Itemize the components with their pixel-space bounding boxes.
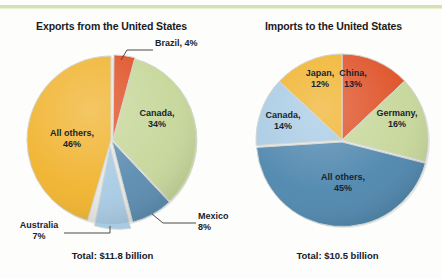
chart-canvas: Exports from the United States (0, 0, 442, 278)
pie-chart-imports (0, 0, 442, 278)
pie-svg-imports (0, 0, 442, 278)
total-label-imports: Total: $10.5 billion (245, 250, 430, 261)
